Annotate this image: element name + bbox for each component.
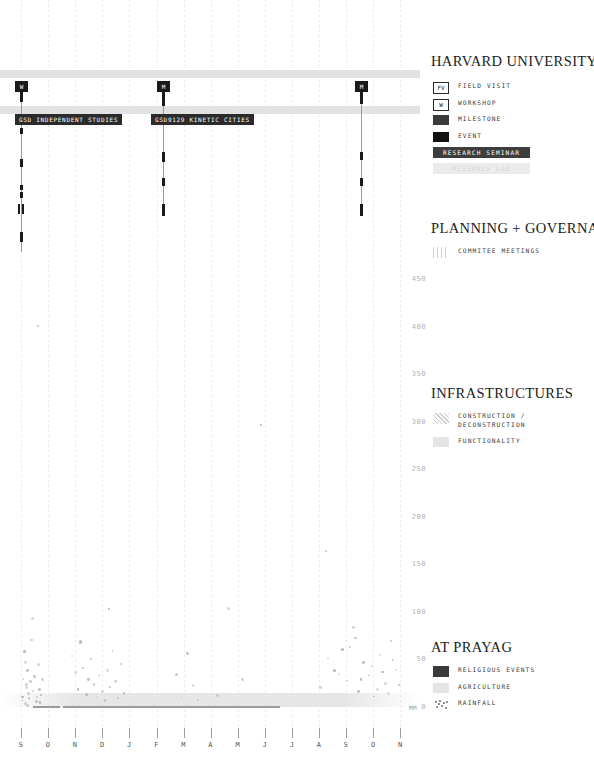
- program-band: [0, 106, 420, 114]
- legend-label-rainfall: RAINFALL: [458, 699, 497, 707]
- rainfall-point: [93, 683, 95, 685]
- rainfall-point: [31, 617, 34, 620]
- timeline-marker-m[interactable]: M: [157, 81, 170, 92]
- x-axis-label: J: [263, 741, 268, 749]
- rainfall-point: [381, 671, 384, 674]
- data-speck: [37, 325, 39, 327]
- rainfall-point: [30, 639, 33, 642]
- rainfall-point: [26, 704, 28, 706]
- rainfall-point: [77, 688, 80, 691]
- data-speck: [108, 608, 110, 610]
- course-label[interactable]: GSD9129 KINETIC CITIES: [151, 114, 254, 125]
- program-band: [0, 70, 420, 78]
- y-axis-tick-label: 400: [404, 323, 426, 331]
- x-axis: SONDJFMAMJJASON: [0, 728, 420, 762]
- x-axis-label: D: [100, 741, 105, 749]
- rainfall-point: [120, 663, 122, 665]
- rainfall-icon: [433, 699, 449, 710]
- legend-label-construction: CONSTRUCTION / DECONSTRUCTION: [458, 412, 526, 429]
- rainfall-point: [379, 654, 381, 656]
- y-axis-tick-label: 350: [404, 370, 426, 378]
- x-axis-label: N: [398, 741, 403, 749]
- rainfall-point: [398, 684, 400, 686]
- timeline-event-segment: [162, 92, 165, 106]
- x-axis-tick: [265, 728, 266, 738]
- x-axis-tick: [157, 728, 158, 738]
- committee-meetings-icon: [433, 247, 448, 258]
- rainfall-point: [98, 675, 100, 677]
- x-axis-label: J: [290, 741, 295, 749]
- rainfall-point: [346, 680, 348, 682]
- timeline-event-segment: [162, 204, 165, 216]
- timeline-event-segment: [20, 192, 23, 198]
- rainfall-point: [360, 678, 362, 680]
- rainfall-point: [114, 680, 117, 683]
- x-axis-label: M: [181, 741, 186, 749]
- timeline-marker-m[interactable]: M: [355, 81, 368, 92]
- rainfall-point: [376, 688, 379, 691]
- x-axis-label: J: [127, 741, 132, 749]
- milestone-icon: [433, 115, 449, 125]
- rainfall-point: [227, 607, 230, 610]
- rainfall-point: [25, 686, 28, 689]
- rainfall-point: [362, 661, 365, 664]
- x-axis-label: N: [73, 741, 78, 749]
- timeline-event-segment: [20, 185, 23, 190]
- legend-label-field-visit: FIELD VISIT: [458, 82, 511, 90]
- timeline-marker-w[interactable]: W: [15, 81, 28, 92]
- rainfall-point: [109, 686, 111, 688]
- rainfall-point: [368, 675, 370, 677]
- rainfall-point: [241, 678, 244, 681]
- rainfall-point: [71, 655, 73, 657]
- rainfall-point: [338, 673, 340, 675]
- rainfall-point: [192, 684, 195, 687]
- agriculture-icon: [433, 683, 449, 693]
- rainfall-point: [74, 671, 77, 674]
- rainfall-point: [37, 663, 40, 666]
- religious-event-bar: [33, 706, 60, 708]
- y-axis-tick-label: 250: [404, 465, 426, 473]
- x-axis-tick: [346, 728, 347, 738]
- y-axis-tick-label: 300: [404, 418, 426, 426]
- timeline-event-segment: [360, 152, 363, 160]
- x-axis-tick: [400, 728, 401, 738]
- rainfall-point: [395, 669, 398, 672]
- rainfall-point: [319, 686, 322, 689]
- rainfall-point: [85, 693, 88, 696]
- legend-section-title-harvard: HARVARD UNIVERSITY: [431, 53, 594, 70]
- rainfall-point: [82, 667, 84, 669]
- y-axis-unit-label: MM: [409, 704, 417, 711]
- y-axis-tick-label: 50: [404, 655, 426, 663]
- rainfall-point: [371, 665, 373, 667]
- rainfall-point: [32, 690, 34, 692]
- x-axis-tick: [319, 728, 320, 738]
- rainfall-point: [25, 683, 28, 686]
- legend-label-agriculture: AGRICULTURE: [458, 683, 511, 691]
- rainfall-point: [325, 550, 327, 552]
- timeline-event-segment: [360, 92, 363, 104]
- legend-label-functionality: FUNCTIONALITY: [458, 437, 521, 445]
- x-axis-tick: [102, 728, 103, 738]
- legend-bar-research-seminar[interactable]: RESEARCH SEMINAR: [433, 147, 530, 158]
- y-axis-tick-label: 450: [404, 275, 426, 283]
- timeline-event-segment: [360, 204, 363, 216]
- timeline-event-segment: [20, 159, 23, 167]
- agriculture-band: [0, 693, 420, 707]
- rainfall-point: [27, 692, 30, 695]
- timeline-event-segment: [360, 178, 363, 186]
- rainfall-point: [175, 673, 178, 676]
- x-axis-tick: [75, 728, 76, 738]
- data-speck: [260, 424, 262, 426]
- rainfall-point: [390, 640, 392, 642]
- rainfall-point: [333, 669, 336, 672]
- rainfall-point: [35, 700, 38, 703]
- rainfall-point: [23, 650, 26, 653]
- timeline-event-segment: [162, 178, 165, 186]
- rainfall-point: [87, 678, 89, 680]
- legend-panel: HARVARD UNIVERSITY FV FIELD VISIT W WORK…: [431, 0, 594, 762]
- course-label[interactable]: GSD INDEPENDENT STUDIES: [15, 114, 122, 125]
- rainfall-point: [22, 678, 24, 680]
- x-axis-tick: [129, 728, 130, 738]
- legend-bar-research-lab[interactable]: RESEARCH LAB: [433, 163, 530, 174]
- rainfall-point: [33, 675, 36, 678]
